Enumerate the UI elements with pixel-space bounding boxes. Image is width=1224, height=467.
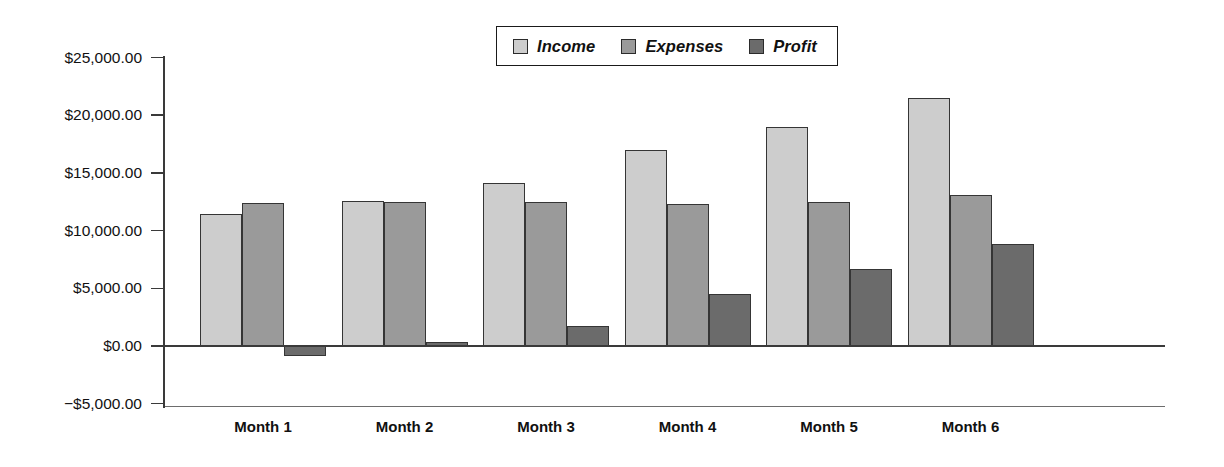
legend-swatch-icon-expenses (621, 39, 636, 54)
zero-baseline (151, 345, 1165, 347)
bar-profit-month-4 (709, 294, 751, 346)
y-axis-line (163, 56, 165, 408)
y-axis-tick (151, 57, 163, 59)
chart-legend: Income Expenses Profit (496, 26, 838, 66)
bar-chart: Income Expenses Profit $25,000.00$20,000… (0, 0, 1224, 467)
legend-label-expenses: Expenses (645, 37, 723, 56)
y-axis-tick (151, 114, 163, 116)
y-axis-tick (151, 172, 163, 174)
bar-income-month-3 (483, 183, 525, 346)
bar-expenses-month-6 (950, 195, 992, 346)
bar-profit-month-1 (284, 346, 326, 356)
bar-income-month-6 (908, 98, 950, 346)
legend-swatch-icon-income (513, 39, 528, 54)
legend-label-profit: Profit (773, 37, 817, 56)
bar-expenses-month-1 (242, 203, 284, 346)
bar-profit-month-6 (992, 244, 1034, 346)
bar-profit-month-5 (850, 269, 892, 346)
bar-expenses-month-2 (384, 202, 426, 346)
legend-label-income: Income (537, 37, 595, 56)
bar-income-month-1 (200, 214, 242, 346)
bar-expenses-month-4 (667, 204, 709, 346)
bar-income-month-5 (766, 127, 808, 346)
y-axis-tick (151, 403, 163, 405)
legend-item-profit: Profit (749, 37, 817, 56)
bars-layer (0, 0, 1224, 467)
legend-item-income: Income (513, 37, 595, 56)
bar-income-month-2 (342, 201, 384, 346)
bar-expenses-month-5 (808, 202, 850, 346)
bar-expenses-month-3 (525, 202, 567, 346)
bar-profit-month-3 (567, 326, 609, 346)
bar-income-month-4 (625, 150, 667, 346)
legend-swatch-icon-profit (749, 39, 764, 54)
legend-item-expenses: Expenses (621, 37, 723, 56)
y-axis-tick (151, 230, 163, 232)
x-axis-baseline-line (163, 406, 1165, 407)
y-axis-tick (151, 288, 163, 290)
